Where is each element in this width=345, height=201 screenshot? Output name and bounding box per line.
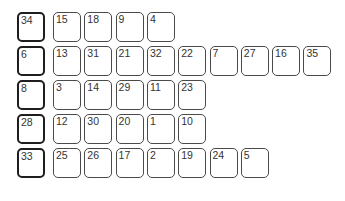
number-box: 18 xyxy=(84,12,112,42)
row-head-box: 28 xyxy=(17,114,45,144)
box-number: 12 xyxy=(56,115,68,127)
number-box: 15 xyxy=(53,12,81,42)
number-box: 31 xyxy=(84,46,112,76)
box-number: 3 xyxy=(56,81,62,93)
number-box: 30 xyxy=(84,114,112,144)
number-box: 12 xyxy=(53,114,81,144)
number-box: 3 xyxy=(53,80,81,110)
number-box: 24 xyxy=(210,148,238,178)
box-number: 22 xyxy=(181,47,193,59)
box-number: 21 xyxy=(119,47,131,59)
box-number: 25 xyxy=(56,149,68,161)
box-number: 23 xyxy=(181,81,193,93)
number-box: 29 xyxy=(116,80,144,110)
box-number: 28 xyxy=(21,116,33,128)
number-box: 25 xyxy=(53,148,81,178)
number-box: 22 xyxy=(178,46,206,76)
number-box: 17 xyxy=(116,148,144,178)
number-box: 10 xyxy=(178,114,206,144)
box-number: 29 xyxy=(119,81,131,93)
box-number: 5 xyxy=(244,149,250,161)
box-number: 27 xyxy=(244,47,256,59)
box-number: 1 xyxy=(150,115,156,127)
box-number: 26 xyxy=(87,149,99,161)
box-number: 31 xyxy=(87,47,99,59)
box-number: 18 xyxy=(87,13,99,25)
box-number: 15 xyxy=(56,13,68,25)
number-box: 11 xyxy=(147,80,175,110)
number-box: 5 xyxy=(241,148,269,178)
number-box: 4 xyxy=(147,12,175,42)
box-number: 24 xyxy=(213,149,225,161)
row-head-box: 34 xyxy=(17,12,45,42)
number-box: 9 xyxy=(116,12,144,42)
box-number: 13 xyxy=(56,47,68,59)
box-number: 11 xyxy=(150,81,161,93)
box-number: 17 xyxy=(119,149,131,161)
box-number: 30 xyxy=(87,115,99,127)
number-box: 23 xyxy=(178,80,206,110)
number-box: 19 xyxy=(178,148,206,178)
box-number: 33 xyxy=(21,150,33,162)
box-number: 2 xyxy=(150,149,156,161)
number-box: 35 xyxy=(303,46,331,76)
box-number: 19 xyxy=(181,149,193,161)
box-number: 32 xyxy=(150,47,162,59)
box-number: 14 xyxy=(87,81,99,93)
box-number: 8 xyxy=(21,82,27,94)
box-number: 9 xyxy=(119,13,125,25)
box-number: 16 xyxy=(275,47,287,59)
number-box: 20 xyxy=(116,114,144,144)
row-head-box: 8 xyxy=(17,80,45,110)
number-box: 16 xyxy=(272,46,300,76)
box-number: 35 xyxy=(306,47,318,59)
number-box: 32 xyxy=(147,46,175,76)
number-box: 2 xyxy=(147,148,175,178)
number-box: 1 xyxy=(147,114,175,144)
box-number: 4 xyxy=(150,13,156,25)
row-head-box: 6 xyxy=(17,46,45,76)
number-box: 26 xyxy=(84,148,112,178)
number-box: 13 xyxy=(53,46,81,76)
box-number: 7 xyxy=(213,47,219,59)
number-box: 14 xyxy=(84,80,112,110)
row-head-box: 33 xyxy=(17,148,45,178)
number-box: 21 xyxy=(116,46,144,76)
number-box: 27 xyxy=(241,46,269,76)
box-number: 20 xyxy=(119,115,131,127)
box-number: 10 xyxy=(181,115,193,127)
box-number: 34 xyxy=(21,14,33,26)
number-box: 7 xyxy=(210,46,238,76)
box-number: 6 xyxy=(21,48,27,60)
